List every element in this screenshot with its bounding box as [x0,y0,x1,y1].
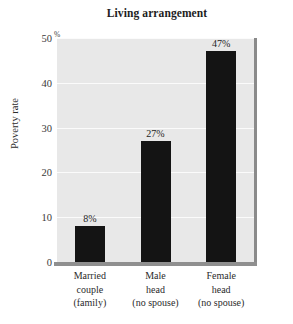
bar-value-label: 27% [146,128,164,139]
y-axis-tick-label: 50 [18,33,52,44]
y-axis-tick-label: 0 [18,257,52,268]
y-axis-tick-label: 20 [18,167,52,178]
x-axis-label-line: head [198,283,244,297]
x-axis-label-line: Female [198,269,244,283]
y-axis-ticks: 01020304050 [16,38,52,262]
bar-value-label: 8% [83,213,96,224]
x-axis-labels: Marriedcouple(family)Malehead(no spouse)… [57,269,254,319]
bar-value-label: 47% [212,38,230,49]
bar [206,51,236,262]
bar [141,141,171,262]
x-axis-label-line: Male [132,269,178,283]
chart-title: Living arrangement [57,7,257,19]
bar [75,226,105,262]
x-axis-label-line: head [132,283,178,297]
x-axis-tick-label: Malehead(no spouse) [132,269,178,310]
x-axis-tick-label: Marriedcouple(family) [73,269,106,310]
y-axis-tick-label: 10 [18,212,52,223]
x-axis-tick-label: Femalehead(no spouse) [198,269,244,310]
x-axis-label-line: (no spouse) [198,296,244,310]
plot-area [57,38,257,262]
x-axis-line [54,262,257,266]
x-axis-label-line: (family) [73,296,106,310]
x-axis-label-line: couple [73,283,106,297]
y-axis-tick-label: 40 [18,77,52,88]
bar-chart: Living arrangement Poverty rate % 010203… [0,0,293,324]
x-axis-label-line: Married [73,269,106,283]
x-axis-label-line: (no spouse) [132,296,178,310]
y-axis-tick-label: 30 [18,122,52,133]
